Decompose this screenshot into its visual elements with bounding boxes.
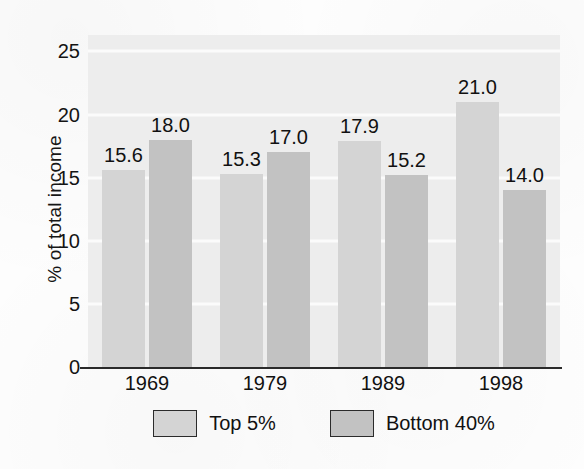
value-label-1998-bottom40: 14.0 (505, 164, 544, 187)
legend-entry-bottom40[interactable]: Bottom 40% (330, 410, 495, 437)
x-axis-tick-labels: 1969197919891998 (88, 372, 560, 400)
y-tick-label-25: 25 (58, 40, 80, 63)
y-tick-label-0: 0 (69, 356, 80, 379)
bar-value-labels: 15.618.015.317.017.915.221.014.0 (88, 35, 560, 367)
chart-legend: Top 5%Bottom 40% (88, 406, 560, 440)
value-label-1998-top5: 21.0 (458, 76, 497, 99)
x-tick-label-1989: 1989 (361, 372, 406, 395)
value-label-1969-top5: 15.6 (104, 144, 143, 167)
y-tick-label-5: 5 (69, 292, 80, 315)
value-label-1979-top5: 15.3 (222, 148, 261, 171)
value-label-1989-top5: 17.9 (340, 115, 379, 138)
value-label-1989-bottom40: 15.2 (387, 149, 426, 172)
value-label-1969-bottom40: 18.0 (151, 114, 190, 137)
legend-label-bottom40: Bottom 40% (386, 412, 495, 435)
x-tick-label-1998: 1998 (479, 372, 524, 395)
legend-swatch-bottom40 (330, 410, 374, 437)
bar-chart-figure: % of total income 0510152025 15.618.015.… (0, 0, 584, 469)
x-tick-label-1969: 1969 (125, 372, 170, 395)
y-tick-label-10: 10 (58, 229, 80, 252)
y-tick-label-15: 15 (58, 166, 80, 189)
x-axis-line (80, 367, 562, 369)
value-label-1979-bottom40: 17.0 (269, 126, 308, 149)
x-tick-label-1979: 1979 (243, 372, 288, 395)
legend-label-top5: Top 5% (209, 412, 276, 435)
y-axis-tick-labels: 0510152025 (44, 35, 80, 367)
y-tick-label-20: 20 (58, 103, 80, 126)
legend-swatch-top5 (153, 410, 197, 437)
legend-entry-top5[interactable]: Top 5% (153, 410, 276, 437)
